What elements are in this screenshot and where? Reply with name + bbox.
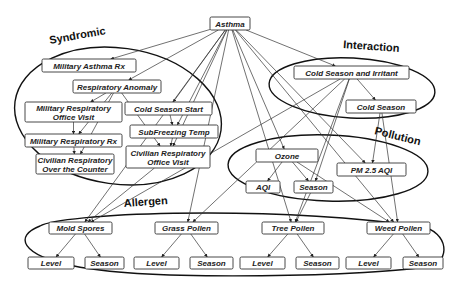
node-label: Level <box>358 259 379 268</box>
node-label: PM 2.5 AQI <box>351 166 393 175</box>
node-mold-level: Level <box>28 257 74 269</box>
diagram-canvas: AsthmaMilitary Asthma RxRespiratory Anom… <box>0 0 468 288</box>
node-label: Military Respiratory Rx <box>30 137 118 146</box>
node-asthma: Asthma <box>210 17 250 30</box>
node-pm25-aqi: PM 2.5 AQI <box>337 163 406 176</box>
node-label: Over the Counter <box>42 165 108 174</box>
node-label: Office Visit <box>147 158 189 167</box>
node-label: Season <box>299 183 328 192</box>
node-ozone-aqi: AQI <box>246 181 280 193</box>
edge-mold_spores-to-mold_season <box>85 234 101 257</box>
node-military-resp-office-visit: Military RespiratoryOffice Visit <box>25 102 122 122</box>
edge-ozone-to-ozone_season <box>292 162 308 181</box>
node-civilian-resp-office-visit: Civilian RespiratoryOffice Visit <box>126 146 210 168</box>
group-label-syndromic: Syndromic <box>48 24 106 46</box>
node-label: Season <box>197 259 226 268</box>
edge-asthma-to-military_asthma_rx <box>111 29 210 59</box>
edge-cold_season_start-to-subfreezing_temp <box>170 115 172 125</box>
edge-cold_season_irritant-to-cold_season <box>357 79 375 100</box>
node-label: AQI <box>255 183 271 192</box>
node-cold-season: Cold Season <box>346 100 416 113</box>
node-label: Asthma <box>214 20 245 29</box>
node-label: Cold Season <box>357 103 406 112</box>
node-label: Office Visit <box>53 113 95 122</box>
node-label: Mold Spores <box>56 224 105 233</box>
node-label: Level <box>252 259 273 268</box>
node-tree-level: Level <box>240 257 285 269</box>
node-label: Civilian Respiratory <box>37 156 113 165</box>
node-tree-season: Season <box>296 257 339 269</box>
node-weed-pollen: Weed Pollen <box>367 222 430 234</box>
group-label-allergen: Allergen <box>123 194 168 209</box>
node-label: Season <box>409 259 438 268</box>
node-civilian-resp-otc: Civilian RespiratoryOver the Counter <box>36 154 114 174</box>
node-label: Season <box>303 259 332 268</box>
edge-weed_pollen-to-weed_season <box>403 234 419 257</box>
node-label: Weed Pollen <box>375 224 423 233</box>
node-label: SubFreezing Temp <box>138 128 209 137</box>
node-grass-pollen: Grass Pollen <box>155 222 218 234</box>
edge-tree_pollen-to-tree_season <box>297 234 313 257</box>
edge-asthma-to-ozone <box>233 30 284 149</box>
node-military-resp-rx: Military Respiratory Rx <box>25 134 122 147</box>
node-label: Civilian Respiratory <box>130 149 206 158</box>
edge-weed_pollen-to-weed_level <box>374 234 394 257</box>
node-label: Season <box>90 259 119 268</box>
node-cold-season-start: Cold Season Start <box>125 102 212 115</box>
node-weed-level: Level <box>346 257 391 269</box>
node-ozone-season: Season <box>294 181 333 193</box>
edge-ozone-to-ozone_aqi <box>268 162 282 181</box>
nodes: AsthmaMilitary Asthma RxRespiratory Anom… <box>25 17 443 269</box>
edge-grass_pollen-to-grass_level <box>162 234 182 257</box>
edge-respiratory_anomaly-to-military_resp_office_visit <box>91 93 106 102</box>
node-tree-pollen: Tree Pollen <box>262 222 324 234</box>
node-label: Respiratory Anomaly <box>77 83 158 92</box>
node-label: Grass Pollen <box>162 224 211 233</box>
node-label: Level <box>146 259 167 268</box>
node-label: Cold Season and Irritant <box>305 69 398 78</box>
node-ozone: Ozone <box>256 149 318 162</box>
node-weed-season: Season <box>403 257 443 269</box>
edge-cold_season-to-pm25_aqi <box>372 113 380 163</box>
group-label-pollution: Pollution <box>374 124 423 147</box>
edge-tree_pollen-to-tree_level <box>268 234 288 257</box>
node-mold-season: Season <box>85 257 124 269</box>
node-label: Military Asthma Rx <box>53 62 125 71</box>
node-military-asthma-rx: Military Asthma Rx <box>42 59 136 72</box>
edge-mold_spores-to-mold_level <box>56 234 75 257</box>
asthma-bayesian-network-diagram: AsthmaMilitary Asthma RxRespiratory Anom… <box>0 0 468 288</box>
node-label: Ozone <box>275 152 300 161</box>
node-label: Tree Pollen <box>272 224 315 233</box>
group-label-interaction: Interaction <box>343 38 400 54</box>
node-mold-spores: Mold Spores <box>49 222 112 234</box>
edge-ozone_season-to-tree_pollen <box>296 193 311 222</box>
node-respiratory-anomaly: Respiratory Anomaly <box>73 80 161 93</box>
edge-subfreezing_temp-to-civilian_resp_office_visit <box>171 138 173 146</box>
node-grass-season: Season <box>190 257 233 269</box>
node-subfreezing-temp: SubFreezing Temp <box>130 125 218 138</box>
node-label: Cold Season Start <box>134 105 203 114</box>
node-grass-level: Level <box>134 257 179 269</box>
edge-grass_pollen-to-grass_season <box>191 234 207 257</box>
node-label: Military Respiratory <box>36 104 111 113</box>
edge-asthma-to-cold_season_irritant <box>246 30 335 66</box>
node-label: Level <box>41 259 62 268</box>
node-cold-season-irritant: Cold Season and Irritant <box>294 66 409 79</box>
